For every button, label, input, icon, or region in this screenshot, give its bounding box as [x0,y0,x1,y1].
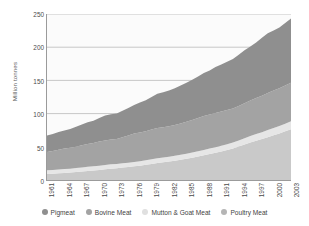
legend-swatch-icon [86,209,92,215]
x-tick-label: 1973 [118,183,125,197]
legend-label: Mutton & Goat Meat [151,209,210,216]
y-tick-label: 0 [40,178,44,185]
plot-area [46,14,291,181]
x-tick-label: 1961 [48,183,55,197]
legend-item[interactable]: Mutton & Goat Meat [142,209,210,216]
x-tick-label: 1979 [153,183,160,197]
y-tick-label: 150 [33,77,44,84]
y-tick-label: 250 [33,11,44,18]
y-tick-label: 200 [33,44,44,51]
x-tick-label: 1976 [136,183,143,197]
x-tick-label: 2003 [293,183,300,197]
legend-label: Bovine Meat [95,209,132,216]
x-tick-label: 1985 [188,183,195,197]
y-axis-tick-labels: 050100150200250 [18,0,44,226]
y-tick-label: 50 [37,144,44,151]
legend-item[interactable]: Pigmeat [42,209,75,216]
x-tick-label: 1988 [206,183,213,197]
legend-label: Poultry Meat [230,209,267,216]
x-tick-label: 1964 [66,183,73,197]
x-tick-label: 1991 [223,183,230,197]
x-tick-label: 1967 [83,183,90,197]
legend-label: Pigmeat [51,209,75,216]
plot-svg [47,14,291,180]
stacked-areas [47,18,291,180]
y-tick-label: 100 [33,111,44,118]
legend-item[interactable]: Poultry Meat [221,209,267,216]
x-tick-label: 1994 [241,183,248,197]
chart-legend: PigmeatBovine MeatMutton & Goat MeatPoul… [0,203,309,221]
legend-item[interactable]: Bovine Meat [86,209,132,216]
x-tick-label: 1997 [258,183,265,197]
area-chart: Million tonnes 050100150200250 196119641… [0,0,309,226]
legend-swatch-icon [142,209,148,215]
x-tick-label: 1982 [171,183,178,197]
legend-swatch-icon [42,209,48,215]
legend-swatch-icon [221,209,227,215]
y-axis-title: Million tonnes [11,47,18,117]
x-tick-label: 1970 [101,183,108,197]
x-tick-label: 2000 [276,183,283,197]
